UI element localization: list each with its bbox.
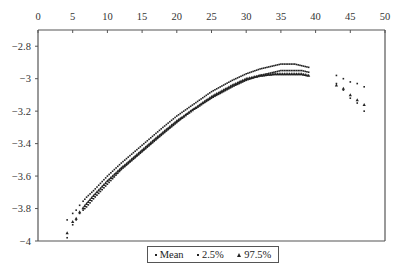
legend-label: 2.5%	[202, 249, 224, 260]
x-tick-label: 35	[276, 11, 287, 22]
y-tick-label: −4	[20, 236, 32, 247]
y-tick-label: −2.8	[12, 41, 31, 52]
x-tick-label: 20	[172, 11, 183, 22]
dot-marker-icon	[197, 254, 199, 256]
y-tick-label: −3.2	[12, 106, 31, 117]
legend-label: Mean	[160, 249, 184, 260]
chart-legend: Mean 2.5% 97.5%	[147, 246, 279, 263]
x-tick-label: 45	[345, 11, 356, 22]
legend-label: 97.5%	[244, 249, 271, 260]
x-tick-label: 30	[241, 11, 252, 22]
x-tick-label: 5	[70, 11, 75, 22]
data-points	[66, 63, 366, 238]
x-tick-label: 40	[310, 11, 321, 22]
x-tick-label: 15	[137, 11, 148, 22]
x-tick-label: 50	[380, 11, 391, 22]
legend-item-2-5: 2.5%	[197, 249, 224, 260]
legend-item-mean: Mean	[155, 249, 184, 260]
y-tick-label: −3.6	[12, 171, 31, 182]
chart-axes: 05101520253035404550−2.8−3−3.2−3.4−3.6−3…	[12, 11, 390, 247]
y-tick-label: −3.8	[12, 203, 31, 214]
legend-item-97-5: 97.5%	[237, 249, 271, 260]
scatter-chart: 05101520253035404550−2.8−3−3.2−3.4−3.6−3…	[0, 0, 398, 277]
x-tick-label: 25	[206, 11, 217, 22]
x-tick-label: 10	[102, 11, 113, 22]
y-tick-label: −3.4	[12, 138, 32, 149]
dot-marker-icon	[155, 254, 157, 256]
triangle-marker-icon	[237, 253, 241, 257]
x-tick-label: 0	[35, 11, 40, 22]
y-tick-label: −3	[20, 73, 31, 84]
